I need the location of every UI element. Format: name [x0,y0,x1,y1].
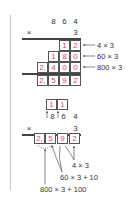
arrows [0,0,136,201]
label-arrows [38,45,95,184]
